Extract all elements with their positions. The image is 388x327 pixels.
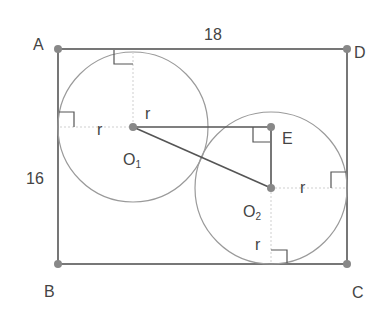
point-o1: [129, 123, 137, 131]
label-r-o2-horizontal: r: [300, 179, 306, 196]
point-o2: [267, 184, 275, 192]
triangle-o1-e-o2: [133, 127, 271, 188]
label-r-o1-horizontal: r: [97, 121, 103, 138]
point-b: [54, 260, 62, 268]
label-o1: O1: [123, 151, 141, 170]
geometry-figure: A D B C E 18 16 O1 O2 r r r r: [0, 0, 388, 327]
label-height: 16: [26, 170, 44, 187]
point-c: [343, 260, 351, 268]
label-r-o2-vertical: r: [255, 236, 261, 253]
label-c: C: [352, 284, 364, 301]
label-o2: O2: [243, 203, 261, 222]
label-d: D: [354, 44, 366, 61]
label-width: 18: [204, 26, 222, 43]
point-e: [267, 123, 275, 131]
label-e: E: [282, 130, 293, 147]
label-a: A: [33, 36, 44, 53]
label-b: B: [44, 283, 55, 300]
point-a: [54, 45, 62, 53]
point-d: [343, 45, 351, 53]
label-r-o1-vertical: r: [145, 105, 151, 122]
